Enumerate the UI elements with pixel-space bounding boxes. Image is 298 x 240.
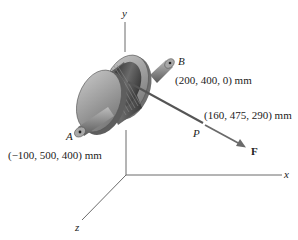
shaft-b [150,57,176,83]
x-axis-label: x [284,169,289,180]
point-b-label: B [178,56,185,67]
spool [68,49,176,142]
point-p-coords: (160, 475, 290) mm [204,110,292,121]
point-b-coords: (200, 400, 0) mm [175,75,252,86]
point-p-label: P [193,128,200,139]
force-arrow-f [205,125,246,148]
z-axis-label: z [75,222,79,233]
z-axis [82,175,126,220]
point-a-coords: (−100, 500, 400) mm [8,150,102,161]
point-a-label: A [66,131,73,142]
y-axis-label: y [122,8,127,19]
force-f-label: F [251,146,258,157]
